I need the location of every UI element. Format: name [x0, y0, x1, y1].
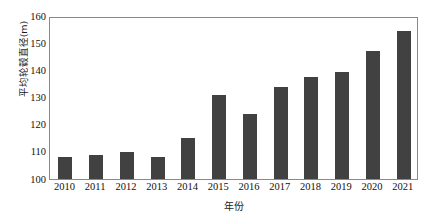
bar: [212, 95, 226, 179]
y-axis-tick-labels: 100110120130140150160: [18, 0, 46, 218]
x-tick-label: 2021: [383, 182, 423, 193]
bar-chart: 平均轮毂直径(m) 100110120130140150160 20102011…: [0, 0, 428, 218]
y-tick-label: 130: [20, 93, 46, 104]
plot-area: [49, 17, 418, 180]
y-tick-label: 160: [20, 12, 46, 23]
bar: [120, 152, 134, 179]
bar: [181, 138, 195, 179]
bars-layer: [50, 18, 417, 179]
y-tick-label: 100: [20, 175, 46, 186]
y-tick-label: 110: [20, 147, 46, 158]
y-tick-label: 150: [20, 39, 46, 50]
bar: [274, 87, 288, 179]
y-tick-label: 140: [20, 66, 46, 77]
bar: [151, 157, 165, 179]
bar: [58, 157, 72, 179]
bar: [335, 72, 349, 179]
bar: [243, 114, 257, 179]
bar: [89, 155, 103, 179]
x-axis-tick-labels: 2010201120122013201420152016201720182019…: [49, 182, 418, 198]
y-tick-label: 120: [20, 120, 46, 131]
x-axis-title: 年份: [49, 198, 418, 213]
bar: [397, 31, 411, 179]
bar: [304, 77, 318, 179]
bar: [366, 51, 380, 179]
